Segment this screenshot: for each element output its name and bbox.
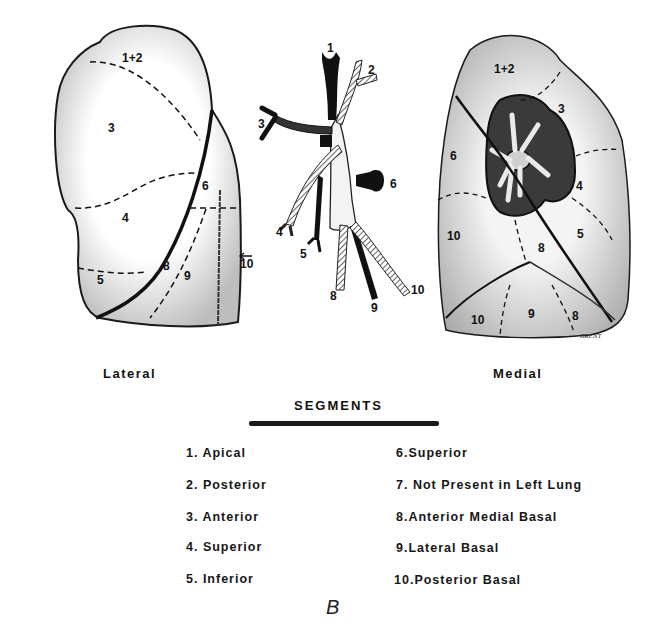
legend-item-4: 4. Superior [186,540,262,554]
medial-seg-5: 5 [577,227,584,241]
medial-seg-4: 4 [576,179,583,193]
bronchus-5: 5 [300,247,307,261]
medial-seg-8-base: 8 [572,309,579,323]
medial-seg-9-base: 9 [528,307,535,321]
lateral-seg-3: 3 [108,121,115,135]
legend-item-9: 9.Lateral Basal [396,541,499,555]
legend-divider [249,421,439,426]
lateral-lung-view: 1+2 3 4 5 6 8 9 10 [55,26,254,327]
legend-item-7: 7. Not Present in Left Lung [396,478,582,492]
legend-item-2: 2. Posterior [186,478,267,492]
bronchus-3: 3 [258,117,265,131]
lateral-seg-5: 5 [97,273,104,287]
legend-title: SEGMENTS [294,398,383,413]
artist-signature: BRENT [580,332,602,340]
bronchus-1: 1 [327,41,334,55]
legend-item-8: 8.Anterior Medial Basal [396,510,557,524]
medial-seg-10: 10 [447,229,461,243]
lung-illustrations: 1+2 3 4 5 6 8 9 10 [0,0,649,360]
medial-seg-8: 8 [538,241,545,255]
medial-seg-6: 6 [450,149,457,163]
lateral-seg-6: 6 [202,179,209,193]
legend-item-10: 10.Posterior Basal [394,573,521,587]
left-lung-segments-figure: 1+2 3 4 5 6 8 9 10 [0,0,649,638]
legend-item-5: 5. Inferior [186,572,254,586]
lateral-seg-8: 8 [163,259,170,273]
lateral-seg-10: 10 [240,257,254,271]
bronchial-tree: 1 2 3 4 5 6 8 9 10 [258,41,425,315]
medial-lung-view: 1+2 3 4 5 6 8 10 10 9 8 BRENT [438,36,630,340]
lateral-seg-4: 4 [122,211,129,225]
legend-item-6: 6.Superior [396,446,468,460]
medial-seg-1-2: 1+2 [494,62,515,76]
medial-seg-3: 3 [558,102,565,116]
medial-seg-10-base: 10 [471,313,485,327]
lateral-seg-9: 9 [184,269,191,283]
bronchus-9: 9 [371,301,378,315]
bronchus-2: 2 [368,63,375,77]
figure-letter: B [326,596,339,619]
bronchus-4: 4 [276,225,283,239]
bronchus-8: 8 [330,289,337,303]
bronchus-6: 6 [390,177,397,191]
lateral-seg-1-2: 1+2 [122,51,143,65]
lateral-view-label: Lateral [103,366,156,381]
medial-view-label: Medial [493,366,542,381]
legend-item-1: 1. Apical [186,446,246,460]
legend-item-3: 3. Anterior [186,510,259,524]
bronchus-10: 10 [411,283,425,297]
